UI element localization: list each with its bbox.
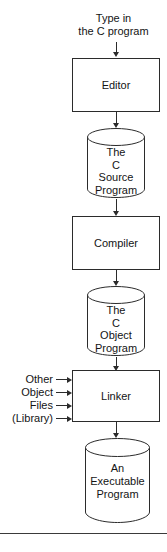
linker-input-row-object: Object bbox=[2, 386, 72, 399]
datastore-label-executable-3: Program bbox=[85, 488, 150, 501]
datastore-label-source-4: Program bbox=[87, 184, 145, 197]
linker-input-row-library: (Library) bbox=[2, 412, 72, 425]
datastore-label-source-2: C bbox=[87, 159, 145, 172]
arrow-compiler-to-object bbox=[112, 270, 121, 286]
datastore-label-object-4: Program bbox=[87, 342, 145, 355]
process-box-editor[interactable]: Editor bbox=[72, 58, 160, 112]
arrow-editor-to-source bbox=[112, 112, 121, 128]
linker-input-label-other: Other bbox=[25, 373, 53, 386]
datastore-executable-program[interactable]: An Executable Program bbox=[85, 438, 150, 523]
arrow-object-to-linker bbox=[112, 357, 121, 371]
arrow-object-files-to-linker bbox=[56, 389, 72, 396]
process-box-linker[interactable]: Linker bbox=[72, 370, 160, 422]
entry-caption: Type in the C program bbox=[60, 12, 167, 38]
datastore-label-executable-1: An bbox=[85, 462, 150, 475]
linker-input-label-files: Files bbox=[30, 399, 53, 412]
entry-caption-line-1: Type in bbox=[60, 12, 167, 25]
datastore-c-object-program[interactable]: The C Object Program bbox=[87, 286, 145, 356]
datastore-label-executable-2: Executable bbox=[85, 475, 150, 488]
datastore-label-object-2: C bbox=[87, 317, 145, 330]
arrow-source-to-compiler bbox=[112, 199, 121, 216]
linker-input-row-other: Other bbox=[2, 373, 72, 386]
linker-input-label-object: Object bbox=[21, 386, 53, 399]
datastore-label-object-3: Object bbox=[87, 329, 145, 342]
datastore-label-source-3: Source bbox=[87, 171, 145, 184]
datastore-label-source-1: The bbox=[87, 146, 145, 159]
process-label-linker: Linker bbox=[101, 390, 131, 403]
bottom-divider bbox=[0, 533, 167, 534]
linker-input-row-files: Files bbox=[2, 399, 72, 412]
flowchart-diagram: Type in the C program Editor The C Sourc… bbox=[0, 0, 167, 552]
arrow-files-to-linker bbox=[56, 402, 72, 409]
arrow-caption-to-editor bbox=[112, 42, 121, 57]
process-box-compiler[interactable]: Compiler bbox=[72, 216, 160, 270]
arrow-library-to-linker bbox=[56, 415, 72, 422]
datastore-label-object-1: The bbox=[87, 304, 145, 317]
process-label-editor: Editor bbox=[102, 79, 131, 92]
entry-caption-line-2: the C program bbox=[60, 25, 167, 38]
arrow-other-to-linker bbox=[56, 376, 72, 383]
arrow-linker-to-executable bbox=[112, 422, 121, 438]
process-label-compiler: Compiler bbox=[94, 237, 138, 250]
datastore-c-source-program[interactable]: The C Source Program bbox=[87, 128, 145, 198]
linker-input-label-library: (Library) bbox=[12, 412, 53, 425]
linker-input-group: Other Object Files (Library) bbox=[2, 371, 72, 423]
